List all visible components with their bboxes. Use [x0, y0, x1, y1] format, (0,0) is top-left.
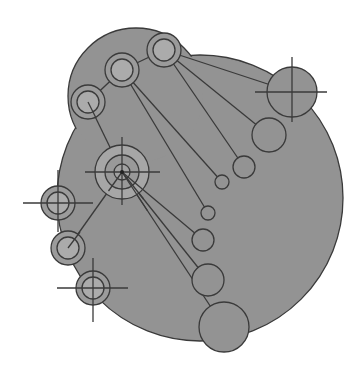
ring-top-right-inner — [153, 39, 175, 61]
sat-right-2-circle — [252, 118, 286, 152]
ring-top-middle-inner — [111, 59, 133, 81]
sat-mid-2-circle — [192, 264, 224, 296]
sat-bottom-circle — [199, 302, 249, 352]
sat-small-1-circle — [215, 175, 229, 189]
sat-mid-1-circle — [192, 229, 214, 251]
sat-right-3-circle — [233, 156, 255, 178]
sat-small-2-circle — [201, 206, 215, 220]
node-diagram — [0, 0, 364, 369]
hub-center-dot — [120, 170, 124, 174]
